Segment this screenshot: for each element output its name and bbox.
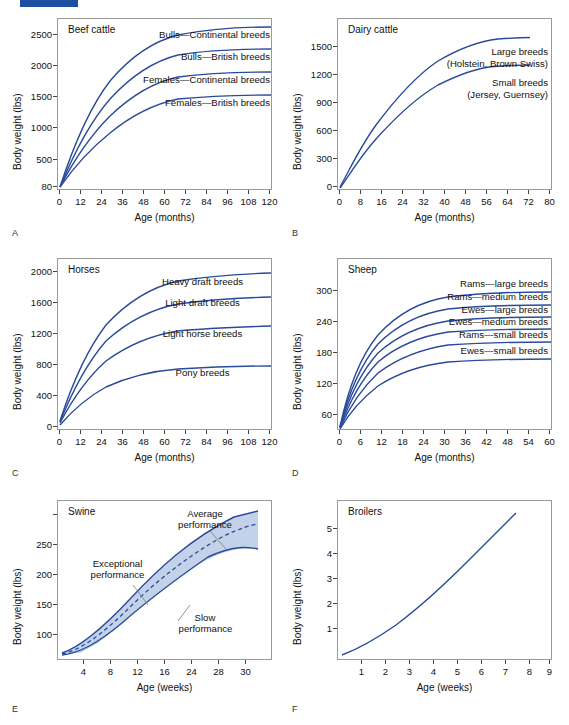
header-accent-bar	[20, 0, 78, 7]
curve-label-a-0: Bulls—Continental breeds	[122, 29, 270, 40]
panel-letter-c: C	[12, 468, 19, 478]
plot-area-f	[337, 500, 552, 660]
xlabel-e: Age (weeks)	[57, 682, 272, 693]
xtick-c-10: 120	[257, 436, 282, 447]
xtick-f-4: 5	[445, 666, 470, 677]
ytick-f-3: 4	[302, 548, 332, 559]
ytick-c-0: 0	[22, 421, 52, 432]
curve-broiler-growth	[342, 513, 516, 655]
ytick-a-2: 1000	[22, 122, 52, 133]
ytick-e-0: 100	[22, 629, 52, 640]
curve-label-d-0: Rams—large breeds	[420, 278, 548, 289]
curve-label-e-average-line2: performance	[155, 519, 255, 530]
curve-females-continental	[60, 72, 271, 187]
curve-label-c-3: Pony breeds	[140, 367, 265, 378]
ytick-e-1: 150	[22, 599, 52, 610]
curve-label-e-slow-line2: performance	[158, 623, 253, 634]
xtick-e-0: 4	[71, 666, 96, 677]
curve-label-e-exceptional-line2: performance	[70, 569, 165, 580]
curve-label-c-1: Light draft breeds	[140, 297, 265, 308]
ytick-c-3: 1200	[22, 328, 52, 339]
xtick-e-1: 8	[98, 666, 123, 677]
chart-svg-b	[338, 19, 552, 190]
panel-letter-e: E	[12, 704, 18, 714]
curve-label-b-1: (Holstein, Brown Swiss)	[400, 58, 548, 69]
ytick-b-2: 600	[302, 125, 332, 136]
curve-label-a-3: Females—British breeds	[122, 97, 270, 108]
curve-label-a-2: Females—Continental breeds	[112, 74, 270, 85]
ytick-a-3: 1500	[22, 91, 52, 102]
curve-label-d-4: Rams—small breeds	[420, 329, 548, 340]
xlabel-c: Age (months)	[57, 452, 272, 463]
chart-svg-f	[338, 501, 552, 660]
panel-title-d: Sheep	[348, 264, 377, 275]
ytick-b-0: 0	[302, 181, 332, 192]
ytick-d-3: 240	[302, 316, 332, 327]
panel-letter-f: F	[292, 704, 298, 714]
ytick-f-4: 5	[302, 523, 332, 534]
curve-label-d-3: Ewes—medium breeds	[410, 316, 548, 327]
ytick-c-1: 400	[22, 390, 52, 401]
panel-title-e: Swine	[68, 506, 95, 517]
curve-label-d-2: Ewes—large breeds	[420, 304, 548, 315]
curve-label-e-average-line1: Average	[165, 508, 245, 519]
panel-title-c: Horses	[68, 264, 100, 275]
xlabel-a: Age (months)	[57, 212, 272, 223]
ytick-c-5: 2000	[22, 266, 52, 277]
curve-label-b-3: (Jersey, Guernsey)	[400, 89, 548, 100]
xtick-e-4: 24	[179, 666, 204, 677]
xtick-e-2: 12	[125, 666, 150, 677]
ytick-d-2: 180	[302, 347, 332, 358]
xtick-e-6: 30	[233, 666, 258, 677]
ytick-b-3: 900	[302, 97, 332, 108]
xtick-a-10: 120	[257, 196, 282, 207]
xtick-f-5: 6	[469, 666, 494, 677]
curve-label-c-2: Light horse breeds	[140, 328, 265, 339]
curve-heavy-draft	[60, 273, 271, 421]
curve-label-b-2: Small breeds	[420, 77, 548, 88]
curve-label-d-1: Rams—medium breeds	[410, 291, 548, 302]
xtick-d-10: 60	[537, 436, 562, 447]
ylabel-d: Body weight (lbs)	[292, 333, 303, 410]
xtick-f-0: 1	[349, 666, 374, 677]
curve-label-a-1: Bulls—British breeds	[132, 51, 270, 62]
xlabel-b: Age (months)	[337, 212, 552, 223]
ytick-b-5: 1500	[302, 41, 332, 52]
curve-label-b-0: Large breeds	[420, 46, 548, 57]
panel-title-b: Dairy cattle	[348, 24, 398, 35]
ytick-a-0: 80	[22, 181, 52, 192]
xlabel-d: Age (months)	[337, 452, 552, 463]
ytick-d-1: 120	[302, 378, 332, 389]
xtick-f-2: 3	[397, 666, 422, 677]
panel-letter-a: A	[12, 228, 18, 238]
xtick-f-1: 2	[373, 666, 398, 677]
ytick-c-4: 1600	[22, 297, 52, 308]
ytick-a-5: 2500	[22, 29, 52, 40]
ytick-d-4: 300	[302, 285, 332, 296]
ytick-c-2: 800	[22, 359, 52, 370]
ytick-a-1: 500	[22, 154, 52, 165]
xtick-e-3: 16	[152, 666, 177, 677]
panel-letter-b: B	[292, 228, 298, 238]
panel-letter-d: D	[292, 468, 299, 478]
ytick-b-1: 300	[302, 153, 332, 164]
curve-light-draft	[60, 297, 271, 422]
ytick-a-4: 2000	[22, 60, 52, 71]
curve-label-c-0: Heavy draft breeds	[140, 276, 265, 287]
curve-label-e-slow-line1: Slow	[175, 612, 235, 623]
xtick-b-10: 80	[537, 196, 562, 207]
xtick-f-8: 9	[537, 666, 562, 677]
curve-label-d-5: Ewes—small breeds	[420, 345, 548, 356]
ytick-d-0: 60	[302, 409, 332, 420]
ytick-f-0: 1	[302, 623, 332, 634]
panel-title-f: Broilers	[348, 506, 382, 517]
xlabel-f: Age (weeks)	[337, 682, 552, 693]
ytick-e-3: 250	[22, 539, 52, 550]
xtick-e-5: 28	[206, 666, 231, 677]
panel-title-a: Beef cattle	[68, 24, 115, 35]
xtick-f-3: 4	[421, 666, 446, 677]
xtick-f-6: 7	[493, 666, 518, 677]
curve-bulls-british	[60, 49, 271, 187]
ytick-e-2: 200	[22, 569, 52, 580]
curve-label-e-exceptional-line1: Exceptional	[70, 558, 165, 569]
